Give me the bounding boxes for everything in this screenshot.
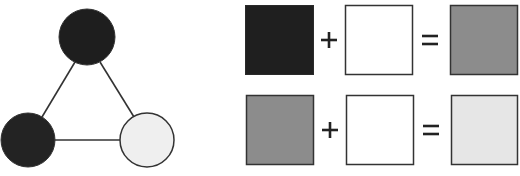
edge-top-bottom-left — [42, 62, 75, 117]
equals-icon — [422, 36, 438, 44]
square-gray — [247, 96, 314, 165]
plus-icon — [321, 32, 337, 48]
square-white — [346, 6, 413, 75]
triangle-graph — [1, 9, 174, 167]
equals-icon — [423, 126, 439, 134]
equation-row-2 — [247, 96, 518, 165]
edge-top-bottom-right — [100, 62, 134, 117]
node-bottom-left — [1, 113, 55, 167]
plus-icon — [322, 122, 338, 138]
square-gray — [451, 6, 518, 75]
equation-row-1 — [246, 6, 518, 75]
square-light-gray — [452, 96, 518, 165]
square-black — [246, 6, 314, 75]
square-white — [347, 96, 414, 165]
diagram-canvas — [0, 0, 520, 176]
node-top — [59, 9, 115, 65]
node-bottom-right — [120, 113, 174, 167]
